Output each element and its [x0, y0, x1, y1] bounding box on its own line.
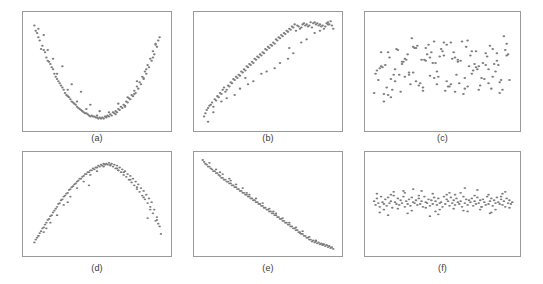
scatter-panel-e: [193, 151, 343, 257]
panel-caption-a: (a): [22, 133, 172, 143]
scatter-plot-a: [23, 12, 171, 131]
scatter-plot-d: [23, 152, 171, 256]
scatter-panel-d: [22, 151, 172, 257]
scatter-panel-b: [193, 11, 343, 132]
panel-caption-e: (e): [193, 263, 343, 273]
scatter-panel-f: [364, 151, 521, 257]
scatter-plot-b: [194, 12, 342, 131]
panel-caption-f: (f): [364, 263, 521, 273]
scatter-panel-a: [22, 11, 172, 132]
scatter-plot-f: [365, 152, 520, 256]
scatter-panel-c: [364, 11, 521, 132]
panel-caption-d: (d): [22, 263, 172, 273]
scatterplot-figure: (a) (b) (c) (d) (e) (f): [0, 0, 543, 284]
scatter-plot-c: [365, 12, 520, 131]
panel-caption-c: (c): [364, 133, 521, 143]
panel-caption-b: (b): [193, 133, 343, 143]
scatter-plot-e: [194, 152, 342, 256]
